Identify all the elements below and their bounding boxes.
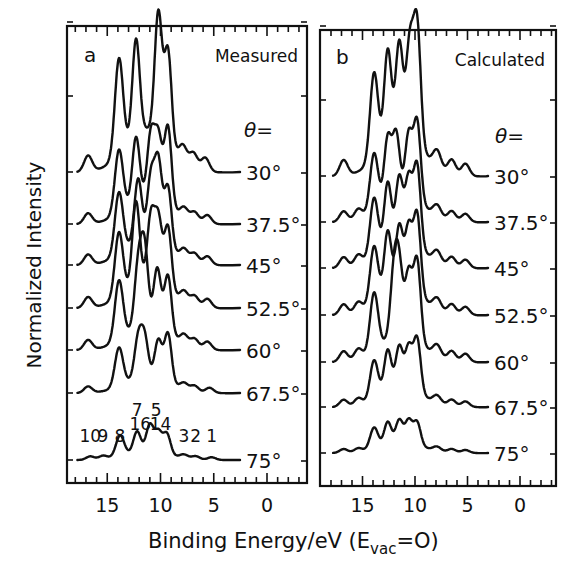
angle-label: 67.5° [494,396,549,420]
x-axis-label: Binding Energy/eV (Evac=O) [148,529,439,558]
spectrum-curve [77,10,240,173]
angle-label: 52.5° [494,304,549,328]
peak-label: 1 [206,426,217,446]
spectrum-curve [333,335,488,407]
angle-label: 37.5° [246,213,301,237]
angle-label: 45° [246,254,281,278]
x-tick-label: 5 [461,494,473,516]
x-tick-label: 0 [514,494,526,516]
spectrum-curve [77,201,240,308]
angle-label: 37.5° [494,211,549,235]
angle-label: 45° [494,257,529,281]
angle-label: 30° [246,161,281,185]
peak-label: 9 [98,426,109,446]
panel-b-letter: b [336,45,349,69]
spectrum-curve [333,418,488,453]
x-tick-label: 5 [208,494,220,516]
panel-b-theta-label: θ= [495,124,524,148]
x-axis-label-main: Binding Energy/eV (E [148,529,370,553]
spectrum-curve [333,117,488,223]
x-tick-label: 15 [350,494,374,516]
angle-label: 67.5° [246,382,301,406]
x-tick-label: 0 [261,494,273,516]
spectrum-curve [333,210,488,316]
panel-a-spectra: 30°37.5°45°52.5°60°67.5°75° [77,10,300,474]
x-axis-label-tail: =O) [396,529,438,553]
x-axis-label-sub: vac [370,540,396,558]
panel-b-title: Calculated [455,50,545,70]
spectrum-curve [77,325,240,394]
panel-a-letter: a [84,43,96,67]
panel-a-ticks [67,22,307,483]
angle-label: 30° [494,165,529,189]
peak-number-labels: 1098716514321 [79,400,217,446]
x-tick-label: 10 [148,494,172,516]
angle-label: 60° [246,339,281,363]
peak-label: 3 [179,426,190,446]
angle-label: 75° [246,449,281,473]
peak-label: 14 [150,414,172,434]
y-axis-label: Normalized Intensity [22,161,46,368]
angle-label: 52.5° [246,297,301,321]
figure-canvas: a Measured b Calculated θ= θ= 30°37.5°45… [0,0,571,567]
spectrum-curve [77,231,240,350]
peak-label: 8 [115,426,126,446]
panel-a-theta-label: θ= [244,118,273,142]
peak-label: 16 [129,414,151,434]
peak-label: 2 [190,426,201,446]
spectrum-curve [333,9,488,176]
panel-b-spectra: 30°37.5°45°52.5°60°67.5°75° [333,9,548,466]
x-tick-label: 10 [403,494,427,516]
x-tick-label: 15 [95,494,119,516]
angle-label: 60° [494,351,529,375]
panel-a-title: Measured [215,46,298,66]
x-tick-labels: 151050151050 [95,494,526,516]
angle-label: 75° [494,442,529,466]
